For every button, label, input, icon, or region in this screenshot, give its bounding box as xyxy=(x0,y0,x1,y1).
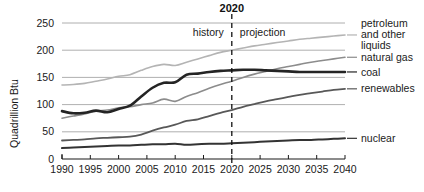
legend-label-coal: coal xyxy=(361,66,380,78)
divider-year-label: 2020 xyxy=(220,2,244,14)
x-tick-label: 2020 xyxy=(220,163,244,175)
legend-label-renewables: renewables xyxy=(361,82,415,94)
annotations: 2020historyprojection xyxy=(193,2,286,163)
x-tick-label: 2005 xyxy=(135,163,159,175)
series-line-natural-gas xyxy=(62,57,345,118)
legend: petroleumand otherliquidsnatural gascoal… xyxy=(347,17,415,144)
legend-label-nuclear: nuclear xyxy=(361,132,396,144)
x-tick-label: 2040 xyxy=(333,163,357,175)
legend-label-petroleum-line3: liquids xyxy=(361,39,391,51)
y-axis-title: Quadrillion Btu xyxy=(8,79,20,148)
energy-consumption-chart: 0501001502002501990199520002005201020152… xyxy=(0,0,424,192)
x-tick-label: 1990 xyxy=(50,163,74,175)
legend-label-natural-gas: natural gas xyxy=(361,51,413,63)
x-tick-label: 2030 xyxy=(277,163,301,175)
y-tick-label: 100 xyxy=(36,98,54,110)
series-line-coal xyxy=(62,70,345,114)
series-line-nuclear xyxy=(62,138,345,148)
series-lines xyxy=(62,35,345,148)
y-tick-label: 200 xyxy=(36,44,54,56)
x-tick-label: 2035 xyxy=(305,163,329,175)
projection-label: projection xyxy=(240,26,286,38)
tick-labels: 0501001502002501990199520002005201020152… xyxy=(36,17,356,175)
history-label: history xyxy=(193,26,225,38)
x-tick-label: 1995 xyxy=(79,163,103,175)
axes xyxy=(62,154,345,159)
x-tick-label: 2015 xyxy=(192,163,216,175)
x-tick-label: 2000 xyxy=(107,163,131,175)
x-tick-label: 2010 xyxy=(164,163,188,175)
series-line-renewables xyxy=(62,89,345,141)
y-tick-label: 150 xyxy=(36,71,54,83)
x-tick-label: 2025 xyxy=(248,163,272,175)
y-tick-label: 250 xyxy=(36,17,54,29)
y-tick-label: 50 xyxy=(42,125,54,137)
chart-svg: 0501001502002501990199520002005201020152… xyxy=(0,0,424,192)
